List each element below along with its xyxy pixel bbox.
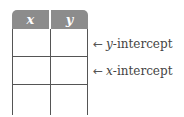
table-row [13,29,87,57]
cell-y [51,29,88,56]
annotation-variable: y [106,37,113,51]
annotation-label: -intercept [113,37,173,51]
annotation-label: -intercept [113,64,173,78]
arrow-left-icon: ← [93,64,103,78]
xy-table-diagram: x y ← y-intercept ← x-intercept [0,0,184,117]
table-row [13,85,87,115]
annotation-variable: x [106,64,113,78]
cell-x [13,29,51,56]
xy-table: x y [12,10,88,115]
table-header: x y [12,10,88,29]
cell-x [13,85,51,115]
header-y: y [51,10,88,29]
cell-y [51,57,88,84]
y-intercept-annotation: ← y-intercept [93,37,172,51]
arrow-left-icon: ← [93,37,103,51]
cell-y [51,85,88,115]
cell-x [13,57,51,84]
table-body [12,29,88,115]
table-row [13,57,87,85]
x-intercept-annotation: ← x-intercept [93,64,172,78]
header-x: x [12,10,49,29]
